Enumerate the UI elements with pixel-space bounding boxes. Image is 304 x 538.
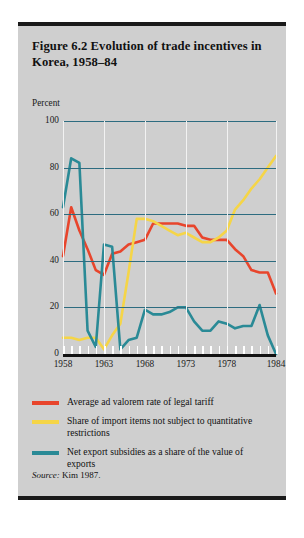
x-axis-tick-mark (120, 346, 122, 354)
x-axis-tick-mark (202, 346, 204, 354)
gridline-vertical (63, 121, 64, 354)
x-axis-tick-mark (276, 346, 278, 354)
x-axis-tick-mark (153, 346, 155, 354)
gridline-horizontal (63, 121, 276, 122)
x-axis-tick-mark (260, 346, 262, 354)
x-axis-tick-mark (227, 346, 229, 354)
chart-series-line (63, 207, 276, 293)
x-axis-tick-mark (219, 346, 221, 354)
x-axis-tick-mark (170, 346, 172, 354)
figure-top-rule (18, 22, 286, 26)
legend-item: Share of import items not subject to qua… (32, 415, 276, 439)
x-axis-tick-mark (194, 346, 196, 354)
y-axis-tick-label: 40 (33, 255, 59, 265)
x-axis-tick-mark (79, 346, 81, 354)
y-axis-tick-label: 20 (33, 301, 59, 311)
legend-item-label: Net export subsidies as a share of the v… (67, 446, 272, 470)
source-label: Source: (32, 470, 60, 480)
gridline-horizontal (63, 261, 276, 262)
x-axis-tick-mark (251, 346, 253, 354)
chart-plot-area (63, 121, 276, 354)
y-axis-tick-label: 0 (33, 348, 59, 358)
chart-legend: Average ad valorem rate of legal tariffS… (32, 396, 276, 477)
legend-item-label: Average ad valorem rate of legal tariff (67, 396, 214, 408)
legend-item-label: Share of import items not subject to qua… (67, 415, 272, 439)
y-axis-tick-label: 100 (33, 115, 59, 125)
source-text: Kim 1987. (62, 470, 101, 480)
legend-item: Net export subsidies as a share of the v… (32, 446, 276, 470)
gridline-vertical (145, 121, 146, 354)
figure-card: Figure 6.2 Evolution of trade incentives… (18, 22, 286, 500)
gridline-vertical (186, 121, 187, 354)
x-axis-tick-mark (88, 346, 90, 354)
x-axis-line (63, 354, 276, 357)
chart-plot-wrapper: 100806040200 195819631968197319781984 (32, 110, 276, 378)
x-axis-tick-mark (210, 346, 212, 354)
x-axis-tick-mark (243, 346, 245, 354)
gridline-vertical (227, 121, 228, 354)
figure-bottom-rule (18, 496, 286, 500)
x-axis-tick-label: 1968 (136, 359, 155, 369)
y-axis-tick-label: 60 (33, 208, 59, 218)
legend-color-swatch (32, 451, 59, 455)
gridline-horizontal (63, 307, 276, 308)
chart-series-layer (63, 121, 276, 354)
x-axis-tick-mark (96, 346, 98, 354)
source-note: Source: Kim 1987. (32, 470, 100, 480)
x-axis-tick-mark (145, 346, 147, 354)
x-axis-tick-label: 1984 (267, 359, 286, 369)
x-axis-tick-label: 1978 (218, 359, 237, 369)
x-axis-tick-mark (129, 346, 131, 354)
x-axis-tick-label: 1973 (177, 359, 196, 369)
x-axis-tick-mark (63, 346, 65, 354)
gridline-vertical (104, 121, 105, 354)
gridline-vertical (276, 121, 277, 354)
x-axis-tick-mark (112, 346, 114, 354)
x-axis-tick-mark (161, 346, 163, 354)
x-axis-tick-mark (186, 346, 188, 354)
legend-item: Average ad valorem rate of legal tariff (32, 396, 276, 408)
legend-color-swatch (32, 401, 59, 405)
figure-title: Figure 6.2 Evolution of trade incentives… (32, 38, 276, 70)
gridline-horizontal (63, 214, 276, 215)
y-axis-unit-label: Percent (32, 98, 60, 108)
y-axis-tick-label: 80 (33, 162, 59, 172)
x-axis-tick-mark (178, 346, 180, 354)
x-axis-tick-mark (268, 346, 270, 354)
x-axis-tick-mark (235, 346, 237, 354)
x-axis-tick-mark (137, 346, 139, 354)
x-axis-tick-mark (104, 346, 106, 354)
x-axis-tick-mark (71, 346, 73, 354)
chart-series-line (63, 156, 276, 349)
x-axis-tick-label: 1958 (54, 359, 73, 369)
gridline-horizontal (63, 168, 276, 169)
x-axis-tick-label: 1963 (95, 359, 114, 369)
y-axis-tick-labels: 100806040200 (32, 121, 59, 354)
legend-color-swatch (32, 420, 59, 424)
